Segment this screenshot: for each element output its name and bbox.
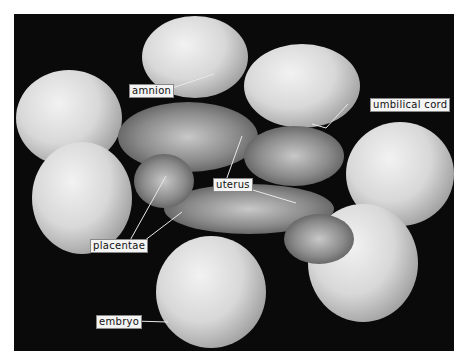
- label-umbilical-cord: umbilical cord: [370, 98, 450, 112]
- label-embryo: embryo: [96, 315, 142, 329]
- label-placentae: placentae: [90, 239, 148, 253]
- label-uterus: uterus: [213, 178, 253, 192]
- label-amnion: amnion: [129, 84, 174, 98]
